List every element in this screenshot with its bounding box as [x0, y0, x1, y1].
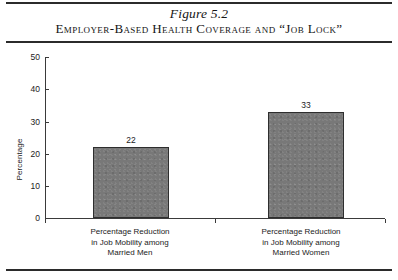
- x-category-label-married-women-line-3: Married Women: [216, 248, 386, 259]
- figure-number: Figure 5.2: [6, 6, 392, 21]
- y-tick-mark-30: [45, 122, 49, 123]
- y-tick-label-10: 10: [18, 181, 40, 191]
- bar-married-men[interactable]: [93, 147, 169, 218]
- x-tick-mark-mid: [215, 219, 216, 223]
- figure-top-rule: [6, 2, 392, 4]
- y-tick-label-0: 0: [18, 213, 40, 223]
- x-category-label-married-women-line-1: Percentage Reduction: [216, 227, 386, 238]
- y-tick-mark-10: [45, 186, 49, 187]
- y-tick-label-20: 20: [18, 149, 40, 159]
- source-note-cutoff: [6, 273, 392, 280]
- x-category-label-married-women: Percentage Reduction in Job Mobility amo…: [216, 227, 386, 259]
- bar-chart-plot: Percentage 0 10 20 30 40 50 22 33 Percen…: [0, 43, 398, 269]
- figure-container: Figure 5.2 Employer-Based Health Coverag…: [0, 0, 398, 280]
- y-tick-label-50: 50: [18, 52, 40, 62]
- y-tick-mark-20: [45, 154, 49, 155]
- x-category-label-married-men-line-1: Percentage Reduction: [45, 227, 215, 238]
- bar-value-married-women: 33: [276, 100, 336, 110]
- figure-bottom-rule: [6, 269, 392, 271]
- x-category-label-married-men: Percentage Reduction in Job Mobility amo…: [45, 227, 215, 259]
- x-category-label-married-men-line-2: in Job Mobility among: [45, 238, 215, 249]
- y-tick-mark-50: [45, 57, 49, 58]
- y-tick-mark-40: [45, 89, 49, 90]
- x-tick-mark-right: [385, 219, 386, 223]
- y-tick-label-30: 30: [18, 117, 40, 127]
- figure-title: Employer-Based Health Coverage and “Job …: [6, 21, 392, 37]
- figure-title-block: Figure 5.2 Employer-Based Health Coverag…: [6, 6, 392, 37]
- bar-married-women[interactable]: [268, 112, 344, 218]
- y-axis-line: [45, 57, 46, 219]
- y-tick-label-40: 40: [18, 84, 40, 94]
- x-category-label-married-men-line-3: Married Men: [45, 248, 215, 259]
- bar-value-married-men: 22: [101, 135, 161, 145]
- x-category-label-married-women-line-2: in Job Mobility among: [216, 238, 386, 249]
- x-tick-mark-left: [45, 219, 46, 223]
